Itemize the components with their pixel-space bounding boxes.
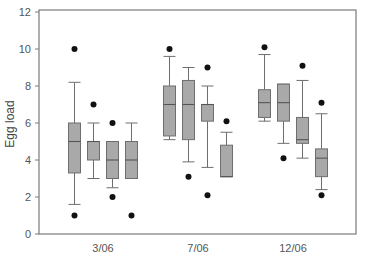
x-axis: 3/067/0612/06 xyxy=(92,242,306,254)
box-series xyxy=(69,44,328,218)
box xyxy=(164,46,176,140)
outlier-point xyxy=(319,100,325,106)
outlier-point xyxy=(281,155,287,161)
outlier-point xyxy=(300,63,306,69)
box xyxy=(88,102,100,179)
box xyxy=(316,100,328,198)
x-tick-label: 7/06 xyxy=(187,242,208,254)
outlier-point xyxy=(186,174,192,180)
box xyxy=(278,84,290,161)
box xyxy=(183,68,195,180)
box xyxy=(221,118,233,176)
y-axis-title: Egg load xyxy=(3,100,17,147)
iqr-box xyxy=(221,145,233,176)
iqr-box xyxy=(202,105,214,122)
outlier-point xyxy=(110,120,116,126)
box-group-7-06 xyxy=(164,46,233,198)
outlier-point xyxy=(91,102,97,108)
box-group-12-06 xyxy=(259,44,328,198)
iqr-box xyxy=(88,142,100,161)
y-tick-label: 12 xyxy=(19,6,31,18)
outlier-point xyxy=(129,213,135,219)
box xyxy=(69,46,81,219)
iqr-box xyxy=(183,80,195,139)
outlier-point xyxy=(224,118,230,124)
box xyxy=(202,65,214,199)
box xyxy=(297,63,309,158)
x-tick-label: 12/06 xyxy=(279,242,307,254)
box xyxy=(107,120,119,200)
outlier-point xyxy=(110,194,116,200)
iqr-box xyxy=(164,86,176,136)
box-group-3-06 xyxy=(69,46,138,219)
outlier-point xyxy=(319,192,325,198)
y-axis: 024681012 xyxy=(19,6,39,240)
outlier-point xyxy=(72,213,78,219)
y-tick-label: 0 xyxy=(25,228,31,240)
outlier-point xyxy=(262,44,268,50)
outlier-point xyxy=(205,65,211,71)
box xyxy=(259,44,271,121)
y-tick-label: 6 xyxy=(25,117,31,129)
iqr-box xyxy=(259,90,271,118)
iqr-box xyxy=(316,149,328,177)
outlier-point xyxy=(167,46,173,52)
outlier-point xyxy=(205,192,211,198)
box xyxy=(126,123,138,219)
y-tick-label: 8 xyxy=(25,80,31,92)
y-tick-label: 10 xyxy=(19,43,31,55)
y-tick-label: 4 xyxy=(25,154,31,166)
iqr-box xyxy=(69,123,81,173)
outlier-point xyxy=(72,46,78,52)
box-plot-chart: 024681012 3/067/0612/06 Egg load xyxy=(0,0,366,263)
y-tick-label: 2 xyxy=(25,191,31,203)
x-tick-label: 3/06 xyxy=(92,242,113,254)
